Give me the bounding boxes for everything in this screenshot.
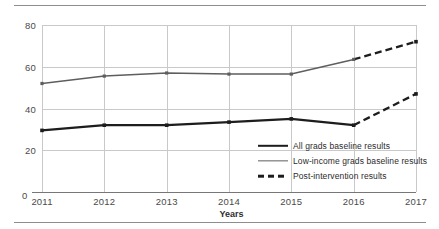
- data-point-low-income-baseline: [165, 71, 168, 74]
- data-point-post-intervention-all-grads: [414, 92, 418, 96]
- data-point-low-income-baseline: [40, 82, 43, 85]
- legend-item-label: All grads baseline results: [293, 141, 390, 151]
- data-point-all-grads-baseline: [227, 120, 231, 124]
- series-line-low-income-baseline: [42, 59, 354, 83]
- data-point-post-intervention-low-income: [414, 40, 418, 44]
- x-tick-label: 2014: [218, 196, 240, 207]
- legend-item[interactable]: Post-intervention results: [258, 169, 438, 183]
- top-divider-rule: [14, 5, 426, 6]
- data-point-all-grads-baseline: [352, 123, 356, 127]
- y-tick-label: 20: [25, 145, 36, 156]
- data-point-all-grads-baseline: [40, 129, 44, 133]
- legend-marker-icon: [258, 141, 288, 151]
- x-axis-title: Years: [0, 209, 439, 219]
- chart-page: Annual grant (in %) 0 80604020 201120122…: [0, 0, 439, 229]
- y-tick-label: 40: [25, 103, 36, 114]
- x-axis-title-text: Years: [219, 209, 243, 219]
- x-axis-line: [32, 192, 416, 193]
- data-point-low-income-baseline: [290, 73, 293, 76]
- legend-item-label: Post-intervention results: [293, 171, 387, 181]
- legend-item[interactable]: Low-income grads baseline results: [258, 154, 438, 168]
- series-line-post-intervention-all-grads: [354, 94, 416, 125]
- legend-marker-icon: [258, 156, 288, 166]
- legend-marker-icon: [258, 171, 288, 181]
- y-tick-label: 80: [25, 20, 36, 31]
- x-tick-label: 2015: [280, 196, 302, 207]
- y-tick-label: 60: [25, 61, 36, 72]
- data-point-low-income-baseline: [227, 73, 230, 76]
- x-tick-label: 2013: [156, 196, 178, 207]
- x-tick-label: 2016: [343, 196, 365, 207]
- data-point-low-income-baseline: [352, 58, 355, 61]
- series-line-all-grads-baseline: [42, 119, 354, 130]
- series-line-post-intervention-low-income: [354, 42, 416, 60]
- legend-item-label: Low-income grads baseline results: [293, 156, 427, 166]
- legend-item[interactable]: All grads baseline results: [258, 139, 438, 153]
- x-tick-label: 2017: [405, 196, 427, 207]
- data-point-all-grads-baseline: [290, 117, 294, 121]
- data-point-all-grads-baseline: [103, 123, 107, 127]
- x-tick-label: 2012: [93, 196, 115, 207]
- x-tick-label: 2011: [31, 196, 52, 207]
- bottom-divider-rule: [14, 222, 426, 223]
- data-point-low-income-baseline: [103, 75, 106, 78]
- chart-legend: All grads baseline resultsLow-income gra…: [258, 139, 438, 184]
- origin-tick-label: 0: [22, 190, 27, 201]
- data-point-all-grads-baseline: [165, 123, 169, 127]
